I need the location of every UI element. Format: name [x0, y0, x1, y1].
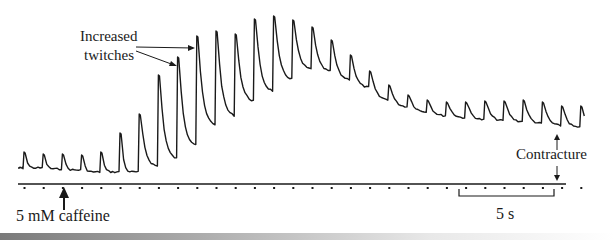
stimulus-mark: [254, 187, 256, 189]
stimulus-mark: [388, 187, 390, 189]
stimulus-mark: [24, 187, 26, 189]
stimulus-mark: [504, 187, 506, 189]
increased-twitches-label-line2: twitches: [84, 47, 134, 64]
stimulus-mark: [43, 187, 45, 189]
stimulus-mark: [158, 187, 160, 189]
stimulus-mark: [542, 187, 544, 189]
stimulus-mark: [331, 187, 333, 189]
stimulus-mark: [196, 187, 198, 189]
stimulus-mark: [408, 187, 410, 189]
stimulus-mark: [350, 187, 352, 189]
stimulus-mark: [292, 187, 294, 189]
contracture-label: Contracture: [516, 146, 587, 163]
stimulus-mark: [369, 187, 371, 189]
stimulus-mark: [216, 187, 218, 189]
increased-twitches-arrows-icon: [136, 45, 195, 66]
stimulus-mark: [235, 187, 237, 189]
stimulus-mark: [100, 187, 102, 189]
stimulus-mark: [427, 187, 429, 189]
stimulus-mark: [273, 187, 275, 189]
stimulus-mark: [523, 187, 525, 189]
stimulus-mark: [120, 187, 122, 189]
stimulus-mark: [465, 187, 467, 189]
stimulus-mark: [561, 187, 563, 189]
stimulus-mark: [446, 187, 448, 189]
stimulus-mark: [177, 187, 179, 189]
scale-bar-label: 5 s: [496, 205, 514, 222]
stimulus-mark: [139, 187, 141, 189]
caffeine-label: 5 mM caffeine: [16, 207, 110, 224]
twitch-recording-figure: Increased twitches 5 mM caffeine Contrac…: [0, 0, 614, 240]
stimulus-mark: [312, 187, 314, 189]
stimulus-mark: [580, 187, 582, 189]
stimulus-marks: [24, 187, 583, 189]
scale-bar: [459, 189, 554, 196]
stimulus-mark: [484, 187, 486, 189]
increased-twitches-label-line1: Increased: [80, 28, 137, 45]
stimulus-mark: [81, 187, 83, 189]
page-edge-shadow: [0, 233, 614, 240]
